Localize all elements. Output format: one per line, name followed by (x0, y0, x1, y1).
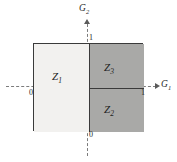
region-label-z2: Z2 (104, 103, 114, 118)
y-axis-label-base: G (79, 3, 86, 13)
unit-square (33, 43, 143, 131)
region-z1-fill (34, 44, 89, 132)
tick-label-x-origin: 0 (29, 88, 33, 97)
x-axis-arrow-icon (155, 83, 160, 89)
region-label-z1: Z1 (52, 70, 62, 85)
region-z3-fill (89, 44, 144, 88)
y-axis-label: G2 (79, 3, 89, 15)
region-partition-figure: Z1 Z3 Z2 G1 G2 0 1 1 0 (0, 0, 177, 162)
horizontal-divider (89, 88, 144, 89)
region-label-z2-sub: 2 (110, 109, 114, 118)
x-axis-label: G1 (161, 79, 171, 91)
region-label-z3: Z3 (104, 61, 114, 76)
x-axis-label-sub: 1 (168, 84, 171, 91)
region-z2-fill (89, 88, 144, 132)
x-axis-label-base: G (161, 79, 168, 89)
tick-label-y-origin: 0 (89, 130, 93, 139)
y-axis-arrow-icon (84, 19, 90, 24)
tick-label-x-max: 1 (141, 88, 145, 97)
tick-label-y-max: 1 (89, 33, 93, 42)
region-label-z3-sub: 3 (110, 67, 114, 76)
y-axis-label-sub: 2 (86, 8, 89, 15)
region-label-z1-sub: 1 (58, 76, 62, 85)
